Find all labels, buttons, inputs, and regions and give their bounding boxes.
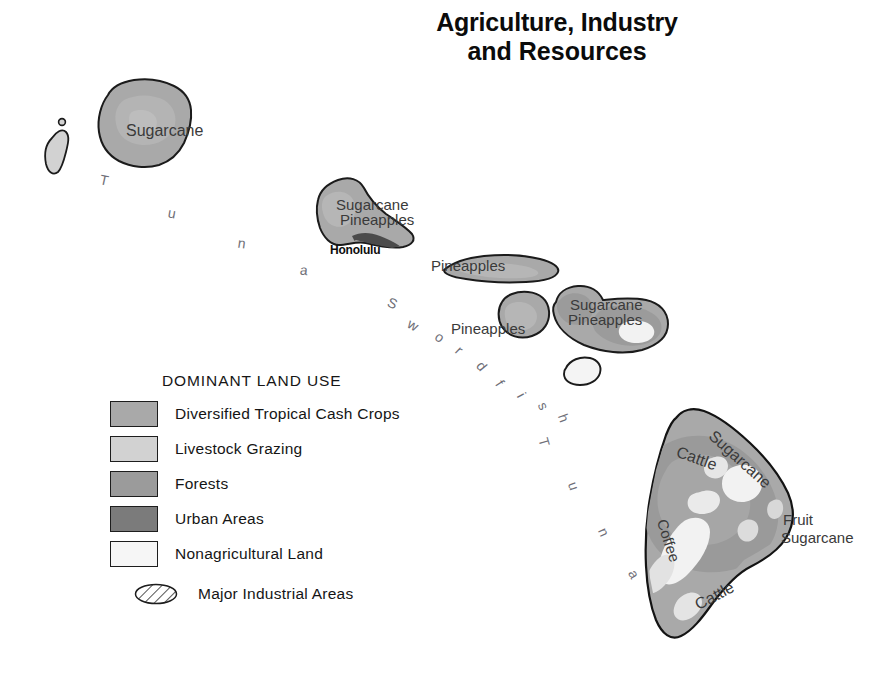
island-kahoolawe: [564, 357, 601, 385]
legend-item-livestock-grazing[interactable]: Livestock Grazing: [110, 435, 430, 463]
legend-item-nonagricultural-land[interactable]: Nonagricultural Land: [110, 540, 430, 568]
island-hawaii: [643, 409, 792, 637]
island-kauai: [98, 79, 191, 167]
title-line-2: and Resources: [347, 37, 767, 66]
map-title: Agriculture, Industry and Resources: [347, 8, 767, 66]
island-lanai: [499, 292, 549, 338]
legend-label-urban-areas: Urban Areas: [175, 510, 264, 528]
legend-swatch-forests: [110, 471, 158, 497]
island-molokai: [444, 255, 558, 282]
legend-item-major-industrial-areas[interactable]: Major Industrial Areas: [134, 580, 430, 608]
legend-swatch-urban-areas: [110, 506, 158, 532]
legend-heading: DOMINANT LAND USE: [162, 372, 430, 390]
legend-swatch-livestock-grazing: [110, 436, 158, 462]
legend: DOMINANT LAND USE Diversified Tropical C…: [110, 372, 430, 615]
island-niihau: [45, 119, 68, 174]
hatched-ellipse-icon: [134, 583, 178, 605]
legend-item-urban-areas[interactable]: Urban Areas: [110, 505, 430, 533]
legend-label-diversified-tropical-cash-crops: Diversified Tropical Cash Crops: [175, 405, 400, 423]
title-line-1: Agriculture, Industry: [347, 8, 767, 37]
legend-label-nonagricultural-land: Nonagricultural Land: [175, 545, 323, 563]
legend-label-major-industrial-areas: Major Industrial Areas: [198, 585, 353, 603]
legend-item-forests[interactable]: Forests: [110, 470, 430, 498]
island-oahu: [317, 178, 414, 252]
legend-swatch-nonagricultural-land: [110, 541, 158, 567]
hawaii-thematic-map: Agriculture, Industry and Resources DOMI…: [0, 0, 879, 679]
legend-item-diversified-tropical-cash-crops[interactable]: Diversified Tropical Cash Crops: [110, 400, 430, 428]
legend-label-forests: Forests: [175, 475, 228, 493]
legend-swatch-diversified-tropical-cash-crops: [110, 401, 158, 427]
island-maui: [553, 286, 668, 353]
legend-label-livestock-grazing: Livestock Grazing: [175, 440, 302, 458]
